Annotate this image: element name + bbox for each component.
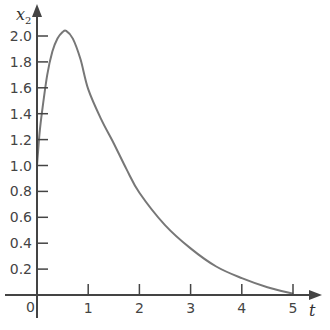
y-axis-label: x 2: [16, 5, 31, 26]
y-tick-label: 1.0: [10, 158, 32, 174]
y-tick-label: 1.6: [10, 80, 32, 96]
y-axis-arrow-icon: [32, 4, 42, 17]
origin-label: 0: [26, 299, 35, 315]
x-tick-label: 4: [237, 300, 246, 316]
chart: 0.20.40.60.81.01.21.41.61.82.0 12345 0 t…: [0, 0, 330, 330]
y-tick-label: 0.4: [10, 235, 32, 251]
y-axis-label-main: x: [16, 5, 25, 24]
x-tick-label: 3: [186, 300, 195, 316]
y-tick-label: 1.8: [10, 54, 32, 70]
data-series-x2: [37, 30, 293, 293]
x-axis-label: t: [309, 301, 316, 320]
x-tick-label: 1: [84, 300, 93, 316]
y-axis-label-subscript: 2: [25, 15, 31, 26]
y-tick-label: 0.6: [10, 209, 32, 225]
curve-line: [37, 30, 293, 293]
x-axis-arrow-icon: [309, 290, 322, 300]
y-tick-label: 1.4: [10, 106, 32, 122]
y-axis-ticks: 0.20.40.60.81.01.21.41.61.82.0: [10, 28, 48, 277]
y-tick-label: 0.2: [10, 261, 32, 277]
x-tick-label: 2: [135, 300, 144, 316]
y-tick-label: 0.8: [10, 183, 32, 199]
x-axis-ticks: 12345: [84, 284, 298, 316]
y-tick-label: 1.2: [10, 132, 32, 148]
y-tick-label: 2.0: [10, 28, 32, 44]
x-tick-label: 5: [289, 300, 298, 316]
